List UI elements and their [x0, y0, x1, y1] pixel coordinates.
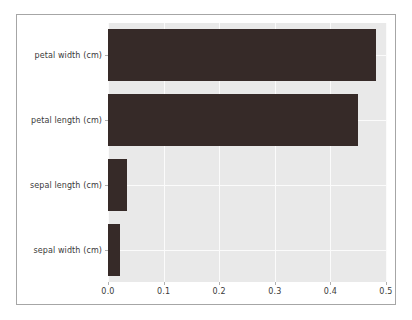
x-tick-mark — [164, 282, 165, 285]
bar — [108, 159, 127, 211]
gridline-horizontal — [108, 250, 386, 251]
x-tick-label: 0.0 — [101, 287, 114, 296]
y-tick-mark — [105, 120, 108, 121]
x-tick-label: 0.1 — [157, 287, 170, 296]
x-tick-label: 0.2 — [213, 287, 226, 296]
x-tick-label: 0.5 — [379, 287, 392, 296]
y-tick-mark — [105, 185, 108, 186]
bar — [108, 94, 358, 146]
x-tick-mark — [275, 282, 276, 285]
y-tick-label: petal width (cm) — [35, 51, 102, 60]
y-tick-label: petal length (cm) — [31, 116, 102, 125]
figure-canvas: 0.00.10.20.30.40.5 sepal width (cm)sepal… — [16, 14, 396, 305]
x-tick-label: 0.4 — [324, 287, 337, 296]
y-tick-label: sepal width (cm) — [34, 245, 102, 254]
bar — [108, 29, 376, 81]
x-tick-mark — [330, 282, 331, 285]
x-tick-mark — [386, 282, 387, 285]
gridline-vertical — [386, 23, 387, 282]
y-tick-mark — [105, 250, 108, 251]
plot-area: 0.00.10.20.30.40.5 sepal width (cm)sepal… — [108, 23, 386, 282]
gridline-horizontal — [108, 185, 386, 186]
bar — [108, 224, 120, 276]
x-tick-mark — [108, 282, 109, 285]
x-tick-label: 0.3 — [268, 287, 281, 296]
y-tick-mark — [105, 55, 108, 56]
y-tick-label: sepal length (cm) — [30, 180, 102, 189]
x-tick-mark — [219, 282, 220, 285]
